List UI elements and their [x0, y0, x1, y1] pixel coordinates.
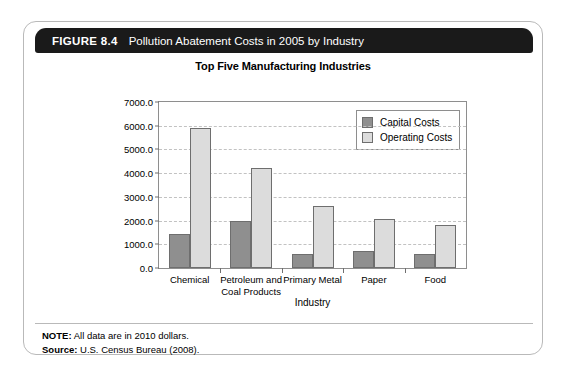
- chart-legend: Capital CostsOperating Costs: [356, 110, 460, 150]
- legend-item: Capital Costs: [362, 115, 452, 130]
- y-axis-tick-label: 3000.0: [124, 191, 153, 202]
- bar-operating: [190, 128, 211, 268]
- bar-operating: [374, 219, 395, 268]
- figure-footer: NOTE: All data are in 2010 dollars. Sour…: [42, 329, 522, 357]
- footer-source-value: U.S. Census Bureau (2008).: [80, 344, 199, 355]
- figure-card: FIGURE 8.4 Pollution Abatement Costs in …: [23, 21, 543, 355]
- legend-item: Operating Costs: [362, 130, 452, 145]
- x-axis-category-label: Chemical: [158, 274, 222, 286]
- y-axis-tick-label: 5000.0: [124, 144, 153, 155]
- footer-source-label: Source:: [42, 344, 77, 355]
- bar-capital: [230, 221, 251, 268]
- plot-area: Capital CostsOperating Costs 0.01000.020…: [158, 101, 467, 269]
- x-axis-tick-mark: [405, 268, 406, 273]
- x-axis-tick-mark: [343, 268, 344, 273]
- x-axis-category-label: Paper: [342, 274, 406, 286]
- y-axis-tick-mark: [155, 196, 159, 197]
- x-axis-tick-mark: [282, 268, 283, 273]
- y-axis-tick-label: 1000.0: [124, 239, 153, 250]
- bar-capital: [353, 251, 374, 268]
- y-axis-tick-label: 2000.0: [124, 215, 153, 226]
- y-axis-tick-mark: [155, 220, 159, 221]
- legend-label: Operating Costs: [380, 132, 452, 143]
- y-axis-tick-mark: [155, 268, 159, 269]
- x-axis-title: Industry: [158, 297, 467, 308]
- y-axis-tick-label: 4000.0: [124, 168, 153, 179]
- figure-number: FIGURE 8.4: [52, 35, 118, 47]
- y-axis-tick-mark: [155, 244, 159, 245]
- gridline: [159, 126, 466, 127]
- y-axis-tick-label: 7000.0: [124, 97, 153, 108]
- bar-operating: [251, 168, 272, 268]
- legend-swatch-operating: [362, 132, 373, 143]
- y-axis-tick-mark: [155, 125, 159, 126]
- x-axis-category-label: Petroleum and Coal Products: [219, 274, 283, 297]
- x-axis-category-label: Primary Metal: [281, 274, 345, 286]
- footer-note-row: NOTE: All data are in 2010 dollars.: [42, 329, 522, 343]
- figure-title: Pollution Abatement Costs in 2005 by Ind…: [129, 35, 364, 47]
- x-axis-tick-mark: [220, 268, 221, 273]
- y-axis-tick-mark: [155, 102, 159, 103]
- y-axis-tick-mark: [155, 149, 159, 150]
- footer-note-value: All data are in 2010 dollars.: [74, 330, 189, 341]
- y-axis-tick-mark: [155, 173, 159, 174]
- x-axis-category-label: Food: [403, 274, 467, 286]
- figure-header-bar: FIGURE 8.4 Pollution Abatement Costs in …: [35, 28, 533, 53]
- chart-title: Top Five Manufacturing Industries: [24, 60, 542, 72]
- footer-divider: [35, 323, 533, 324]
- bar-capital: [414, 254, 435, 268]
- footer-source-row: Source: U.S. Census Bureau (2008).: [42, 343, 522, 357]
- bar-operating: [313, 206, 334, 268]
- y-axis-tick-label: 0.0: [140, 263, 153, 274]
- y-axis-tick-label: 6000.0: [124, 120, 153, 131]
- bar-capital: [292, 254, 313, 268]
- bar-operating: [435, 225, 456, 268]
- footer-note-label: NOTE:: [42, 330, 72, 341]
- chart-block: Top Five Manufacturing Industries Millio…: [24, 54, 542, 322]
- bar-capital: [169, 234, 190, 268]
